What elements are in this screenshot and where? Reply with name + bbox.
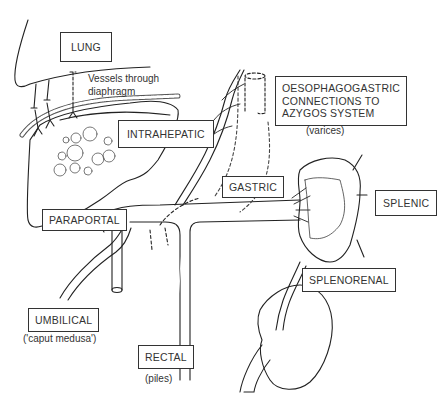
label-gastric: GASTRIC	[222, 176, 284, 198]
label-umbilical: UMBILICAL	[28, 308, 99, 332]
kidney-outline	[258, 285, 332, 389]
label-piles: (piles)	[145, 373, 172, 384]
portal-vein	[100, 200, 300, 215]
label-splenic: SPLENIC	[375, 190, 437, 216]
label-varices: (varices)	[306, 125, 344, 136]
liver-nodules-icon	[54, 127, 115, 176]
label-intrahepatic: INTRAHEPATIC	[118, 120, 214, 148]
label-vessels-diaphragm: Vessels through diaphragm	[88, 73, 159, 98]
label-oesophagogastric: OESOPHAGOGASTRIC CONNECTIONS TO AZYGOS S…	[275, 76, 407, 126]
label-lung: LUNG	[60, 32, 112, 62]
label-caput-medusa: ('caput medusa')	[23, 333, 96, 344]
label-splenorenal: SPLENORENAL	[302, 268, 396, 292]
label-rectal: RECTAL	[138, 345, 194, 369]
label-paraportal: PARAPORTAL	[42, 209, 127, 231]
